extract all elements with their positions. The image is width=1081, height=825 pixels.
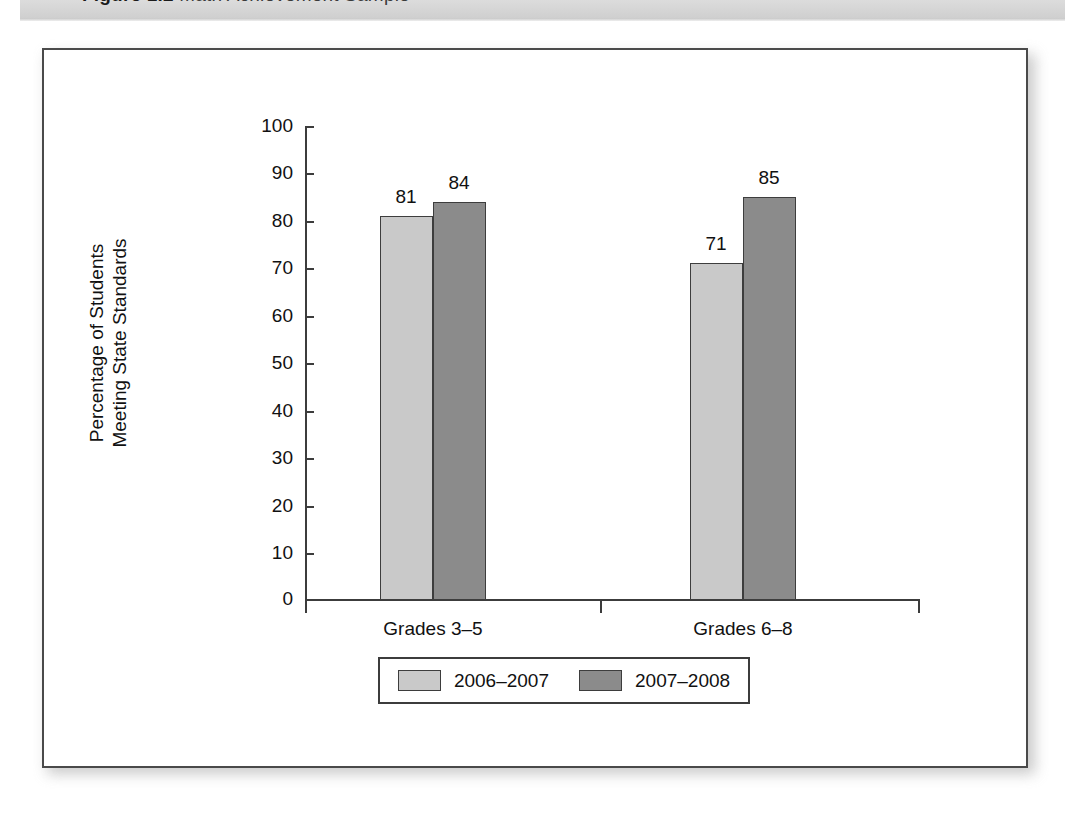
y-axis-title-line-1: Percentage of Students xyxy=(85,178,108,508)
y-tick-60 xyxy=(305,316,314,318)
x-tick-right-end xyxy=(918,601,920,613)
legend-label-2006-2007: 2006–2007 xyxy=(454,670,549,692)
y-tick-40 xyxy=(305,411,314,413)
y-tick-label-20: 20 xyxy=(235,495,293,517)
legend-label-2007-2008: 2007–2008 xyxy=(635,670,730,692)
chart-legend: 2006–2007 2007–2008 xyxy=(378,657,750,704)
x-axis-category-label-grades-3-5: Grades 3–5 xyxy=(303,618,563,640)
y-axis-title-line-2: Meeting State Standards xyxy=(108,178,131,508)
y-tick-label-0: 0 xyxy=(235,588,293,610)
y-tick-label-30: 30 xyxy=(235,447,293,469)
y-tick-10 xyxy=(305,553,314,555)
bar-chart: Percentage of Students Meeting State Sta… xyxy=(44,50,1030,770)
y-tick-label-80: 80 xyxy=(235,210,293,232)
y-tick-label-40: 40 xyxy=(235,400,293,422)
bar-grades6-8-2007-2008 xyxy=(743,197,796,600)
y-tick-label-50: 50 xyxy=(235,352,293,374)
bar-value-label-grades3-5-2007-2008: 84 xyxy=(424,172,494,194)
y-tick-20 xyxy=(305,506,314,508)
x-axis-category-label-grades-6-8: Grades 6–8 xyxy=(613,618,873,640)
caption-divider xyxy=(20,18,1065,21)
bar-value-label-grades6-8-2007-2008: 85 xyxy=(734,167,804,189)
y-axis-title: Percentage of Students Meeting State Sta… xyxy=(85,178,131,508)
x-tick-separator xyxy=(600,601,602,613)
bar-value-label-grades6-8-2006-2007: 71 xyxy=(681,233,751,255)
figure-caption-text: Figure 1.2 Math Achievement Sample xyxy=(82,0,410,6)
bar-grades3-5-2006-2007 xyxy=(380,216,433,600)
figure-frame: Percentage of Students Meeting State Sta… xyxy=(42,48,1028,768)
legend-swatch-dark-gray-icon xyxy=(579,670,622,691)
y-tick-label-10: 10 xyxy=(235,542,293,564)
y-tick-label-100: 100 xyxy=(235,115,293,137)
figure-caption-subtitle: Math Achievement Sample xyxy=(179,0,410,5)
y-tick-90 xyxy=(305,173,314,175)
figure-caption-label: Figure 1.2 xyxy=(82,0,174,5)
y-tick-label-60: 60 xyxy=(235,305,293,327)
y-tick-30 xyxy=(305,458,314,460)
legend-item-2007-2008: 2007–2008 xyxy=(579,670,730,692)
y-tick-100 xyxy=(305,126,314,128)
x-tick-left-end xyxy=(305,601,307,613)
bar-grades3-5-2007-2008 xyxy=(433,202,486,600)
y-tick-80 xyxy=(305,221,314,223)
y-tick-70 xyxy=(305,268,314,270)
y-tick-label-70: 70 xyxy=(235,257,293,279)
bar-grades6-8-2006-2007 xyxy=(690,263,743,600)
y-tick-50 xyxy=(305,363,314,365)
legend-item-2006-2007: 2006–2007 xyxy=(398,670,549,692)
y-tick-label-90: 90 xyxy=(235,162,293,184)
figure-caption-band: Figure 1.2 Math Achievement Sample xyxy=(20,0,1065,18)
legend-swatch-light-gray-icon xyxy=(398,670,441,691)
